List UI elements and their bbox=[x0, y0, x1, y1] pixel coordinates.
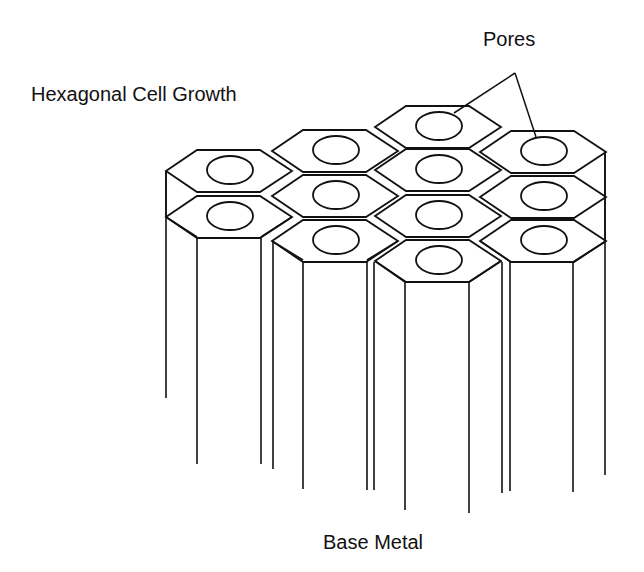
hex-cell bbox=[375, 195, 501, 237]
hex-cell bbox=[166, 150, 292, 192]
pores-leader-line-right bbox=[515, 73, 536, 137]
hexagonal-cell-diagram: Hexagonal Cell Growth Pores Base Metal bbox=[0, 0, 644, 572]
hex-cell bbox=[272, 220, 398, 262]
hex-cell bbox=[272, 175, 398, 217]
base-metal-label: Base Metal bbox=[323, 531, 423, 553]
hex-cell bbox=[480, 220, 606, 262]
pores-leader-line-left bbox=[454, 73, 515, 113]
hex-cell bbox=[375, 106, 501, 148]
hex-cell bbox=[480, 176, 606, 218]
hex-cell bbox=[375, 149, 501, 191]
hexagonal-cells bbox=[166, 106, 606, 282]
hex-cell bbox=[166, 196, 292, 238]
hex-cell bbox=[480, 131, 606, 173]
hex-cell bbox=[272, 130, 398, 172]
hexagonal-cell-growth-label: Hexagonal Cell Growth bbox=[31, 83, 237, 105]
pores-label: Pores bbox=[483, 28, 535, 50]
hex-cell bbox=[375, 240, 501, 282]
